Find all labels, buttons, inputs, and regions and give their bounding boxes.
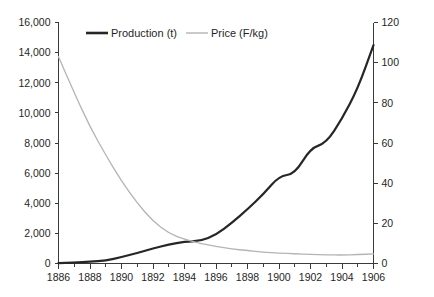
- right-axis-tick-label: 0: [382, 257, 388, 269]
- chart-legend: Production (t)Price (F/kg): [86, 27, 268, 39]
- x-axis-tick-label: 1890: [110, 271, 134, 283]
- left-axis-tick-label: 6,000: [24, 167, 50, 179]
- x-axis-tick-label: 1904: [330, 271, 354, 283]
- chart-container: 02,0004,0006,0008,00010,00012,00014,0001…: [0, 0, 434, 297]
- left-axis-tick-label: 16,000: [18, 16, 50, 28]
- right-axis-tick-label: 100: [382, 56, 400, 68]
- x-axis-tick-label: 1892: [141, 271, 165, 283]
- left-axis-tick-label: 14,000: [18, 46, 50, 58]
- left-axis-tick-label: 10,000: [18, 107, 50, 119]
- right-axis-tick-label: 60: [382, 137, 394, 149]
- x-axis-tick-label: 1898: [236, 271, 260, 283]
- x-axis-tick-label: 1896: [204, 271, 228, 283]
- right-axis-tick-label: 20: [382, 217, 394, 229]
- left-axis-tick-label: 0: [45, 257, 51, 269]
- x-axis-tick-label: 1888: [78, 271, 102, 283]
- x-axis-tick-label: 1894: [173, 271, 197, 283]
- left-axis-tick-label: 4,000: [24, 197, 50, 209]
- right-axis-tick-label: 40: [382, 177, 394, 189]
- x-axis-tick-label: 1886: [47, 271, 71, 283]
- left-axis-tick-label: 2,000: [24, 227, 50, 239]
- legend-label-2: Price (F/kg): [211, 27, 268, 39]
- left-axis-tick-label: 8,000: [24, 137, 50, 149]
- x-axis-tick-label: 1906: [362, 271, 386, 283]
- x-axis-tick-labels: 1886188818901892189418961898190019021904…: [47, 271, 386, 283]
- right-axis-tick-label: 120: [382, 16, 400, 28]
- left-axis-tick-label: 12,000: [18, 77, 50, 89]
- x-axis-tick-label: 1902: [299, 271, 323, 283]
- right-axis-tick-label: 80: [382, 97, 394, 109]
- line-chart: 02,0004,0006,0008,00010,00012,00014,0001…: [0, 0, 434, 297]
- legend-label-1: Production (t): [111, 27, 177, 39]
- x-axis-tick-label: 1900: [267, 271, 291, 283]
- chart-background: [0, 0, 434, 297]
